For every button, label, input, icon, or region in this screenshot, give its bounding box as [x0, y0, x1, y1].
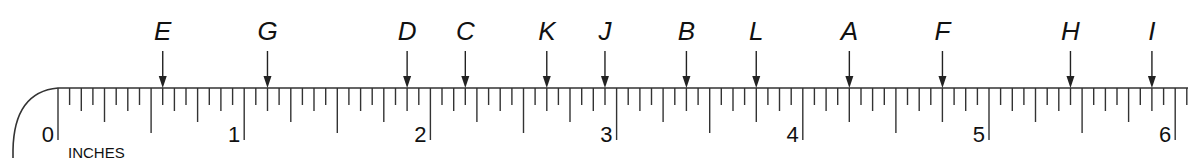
marker-label: C — [456, 16, 475, 46]
units-label: INCHES — [68, 144, 125, 160]
arrow-down-icon — [752, 76, 760, 88]
markers: EGDCKJBLAFHI — [154, 16, 1156, 88]
arrow-down-icon — [682, 76, 690, 88]
inch-label: 3 — [600, 122, 612, 147]
inch-label: 5 — [973, 122, 985, 147]
marker-label: B — [678, 16, 695, 46]
marker-c: C — [456, 16, 475, 88]
marker-h: H — [1061, 16, 1080, 88]
inch-label: 6 — [1159, 122, 1171, 147]
inch-labels: 0123456 — [42, 122, 1171, 147]
arrow-down-icon — [845, 76, 853, 88]
marker-label: E — [154, 16, 172, 46]
arrow-down-icon — [159, 76, 167, 88]
marker-j: J — [598, 16, 613, 88]
inch-label: 4 — [787, 122, 799, 147]
marker-a: A — [839, 16, 858, 88]
inch-label: 1 — [228, 122, 240, 147]
arrow-down-icon — [461, 76, 469, 88]
arrow-down-icon — [1148, 76, 1156, 88]
marker-b: B — [678, 16, 695, 88]
marker-label: K — [538, 16, 557, 46]
ruler: 0123456 EGDCKJBLAFHI INCHES — [0, 0, 1188, 160]
marker-label: D — [398, 16, 417, 46]
arrow-down-icon — [601, 76, 609, 88]
marker-label: A — [839, 16, 858, 46]
inch-label: 0 — [42, 122, 54, 147]
marker-d: D — [398, 16, 417, 88]
marker-label: J — [598, 16, 613, 46]
marker-g: G — [257, 16, 277, 88]
arrow-down-icon — [543, 76, 551, 88]
marker-l: L — [749, 16, 763, 88]
marker-f: F — [934, 16, 952, 88]
arrow-down-icon — [403, 76, 411, 88]
marker-k: K — [538, 16, 557, 88]
arrow-down-icon — [938, 76, 946, 88]
marker-label: L — [749, 16, 763, 46]
marker-label: G — [257, 16, 277, 46]
arrow-down-icon — [1066, 76, 1074, 88]
marker-label: F — [934, 16, 952, 46]
marker-label: H — [1061, 16, 1080, 46]
inch-label: 2 — [414, 122, 426, 147]
marker-label: I — [1148, 16, 1155, 46]
arrow-down-icon — [263, 76, 271, 88]
marker-e: E — [154, 16, 172, 88]
marker-i: I — [1148, 16, 1156, 88]
